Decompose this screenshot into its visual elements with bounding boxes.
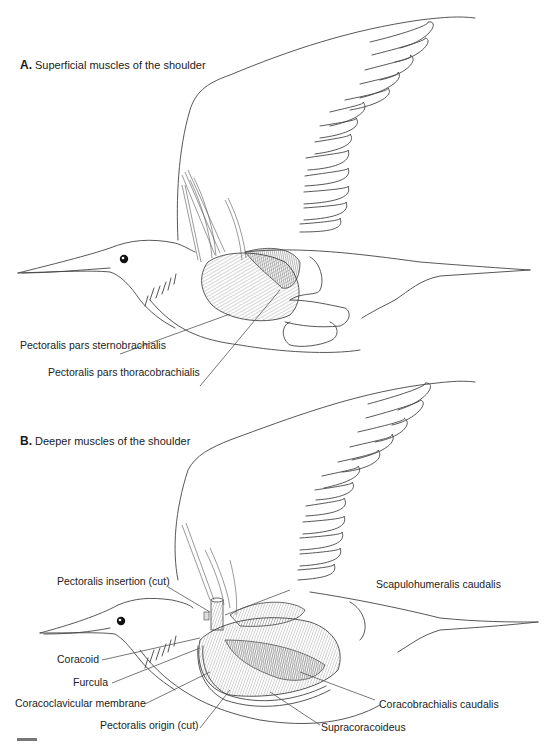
label-pectoralis-origin-cut: Pectoralis origin (cut) (100, 719, 199, 731)
label-supracoracoideus: Supracoracoideus (321, 721, 406, 733)
label-pectoralis-pars-thoracobrachialis: Pectoralis pars thoracobrachialis (48, 366, 200, 378)
figure-marker (17, 738, 37, 741)
label-coracoclavicular-membrane: Coracoclavicular membrane (15, 697, 146, 709)
label-pectoralis-pars-sternobrachialis: Pectoralis pars sternobrachialis (20, 339, 166, 351)
panel-a-bird (18, 17, 530, 386)
label-coracobrachialis-caudalis: Coracobrachialis caudalis (379, 698, 499, 710)
label-pectoralis-insertion-cut: Pectoralis insertion (cut) (57, 575, 170, 587)
label-coracoid: Coracoid (57, 653, 99, 665)
panel-a-letter: A. (20, 58, 32, 72)
panel-b-letter: B. (20, 434, 32, 448)
panel-a-title-text: Superficial muscles of the shoulder (35, 59, 206, 71)
label-scapulohumeralis-caudalis: Scapulohumeralis caudalis (376, 578, 501, 590)
panel-a-title: A.Superficial muscles of the shoulder (20, 58, 206, 72)
label-furcula: Furcula (73, 676, 108, 688)
panel-b-title: B.Deeper muscles of the shoulder (20, 434, 190, 448)
panel-b-title-text: Deeper muscles of the shoulder (35, 435, 190, 447)
